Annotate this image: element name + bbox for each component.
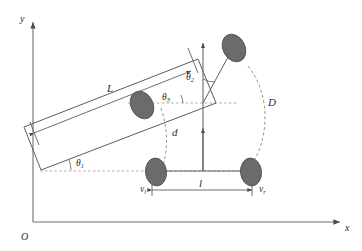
left-wheel-velocity-label: vl — [140, 184, 146, 195]
right-wheel-velocity-label: vr — [259, 184, 266, 195]
offset-arc-d — [161, 108, 167, 165]
right-velocity-subscript: r — [263, 188, 266, 195]
theta2-subscript: 2 — [191, 76, 195, 83]
coordinate-axes — [33, 22, 340, 222]
front-lower-wheel — [125, 87, 158, 123]
theta3-subscript: 3 — [166, 96, 171, 103]
theta3-label: θ3 — [162, 92, 171, 103]
y-axis-label: y — [19, 13, 25, 24]
x-axis-label: x — [344, 222, 350, 233]
wheel-track-label: l — [199, 177, 202, 189]
theta1-arc — [69, 160, 71, 170]
turn-radius-arc-D — [248, 66, 265, 164]
rear-left-wheel — [144, 157, 168, 187]
theta1-label: θ1 — [76, 158, 84, 169]
length-extension-right — [188, 48, 198, 73]
body-length-label: L — [106, 82, 113, 94]
chassis-lower-edge — [41, 103, 216, 170]
offset-label: d — [172, 126, 178, 138]
theta3-arc — [181, 95, 183, 103]
left-velocity-subscript: l — [144, 188, 146, 195]
theta2-label: θ2 — [186, 72, 195, 83]
turn-radius-label: D — [267, 96, 276, 108]
rear-right-wheel — [239, 157, 263, 187]
theta2-arc — [203, 79, 215, 82]
front-upper-wheel — [217, 30, 250, 66]
length-extension-left — [30, 122, 39, 145]
diagram-canvas: y x O L l θ1 — [0, 0, 362, 251]
origin-label: O — [21, 231, 28, 242]
theta1-subscript: 1 — [81, 162, 84, 169]
